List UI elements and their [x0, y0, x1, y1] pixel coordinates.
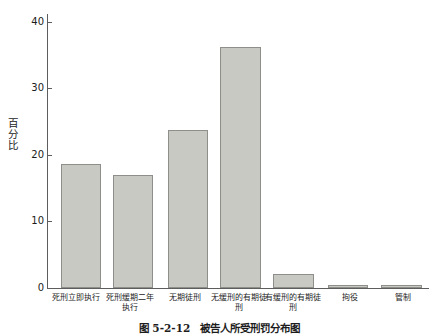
y-tick-label-30: 30	[18, 83, 44, 93]
x-tick-label-2: 无期徒刑	[159, 293, 211, 303]
bar-0	[61, 164, 101, 288]
y-tick-mark-0	[47, 288, 52, 289]
bar-5	[328, 285, 368, 288]
bar-chart-figure: 百分比 40 30 20 10 0 死刑立即执行 死刑缓期二年执行 无期徒刑 无…	[0, 0, 439, 335]
x-axis-line	[47, 288, 429, 289]
x-tick-label-1: 死刑缓期二年执行	[104, 293, 156, 312]
x-tick-label-5: 拘役	[324, 293, 376, 303]
plot-area	[48, 14, 429, 288]
y-tick-label-20: 20	[18, 150, 44, 160]
bar-1	[113, 175, 153, 288]
bar-2	[168, 130, 208, 288]
x-tick-label-6: 管制	[377, 293, 429, 303]
y-axis-title: 百分比	[2, 118, 18, 151]
bar-6	[381, 285, 422, 288]
bar-3	[220, 47, 261, 288]
x-tick-label-3: 无缓刑的有期徒刑	[211, 293, 267, 312]
y-tick-label-10: 10	[18, 216, 44, 226]
y-tick-label-0: 0	[18, 283, 44, 293]
x-tick-label-0: 死刑立即执行	[50, 293, 102, 303]
figure-caption: 图 5-2-12 被告人所受刑罚分布图	[0, 322, 439, 335]
y-tick-label-40: 40	[18, 17, 44, 27]
x-tick-label-4: 有缓刑的有期徒刑	[265, 293, 321, 312]
bar-4	[273, 274, 314, 288]
